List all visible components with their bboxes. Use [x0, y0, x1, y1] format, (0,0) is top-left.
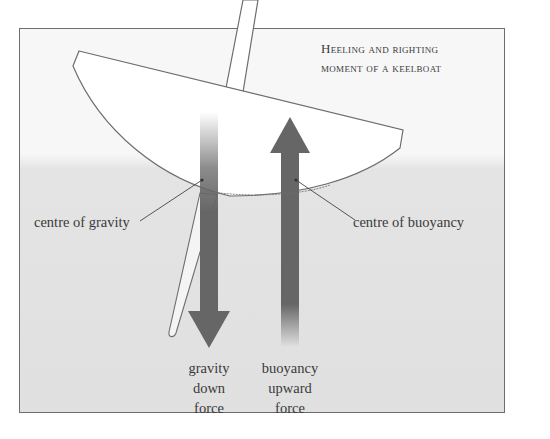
centre-of-buoyancy-point — [294, 178, 297, 181]
buoyancy-label-line: force — [255, 398, 325, 418]
gravity-label-line: down — [178, 378, 240, 398]
buoyancy-label-line: upward — [255, 378, 325, 398]
title-line-1: Heeling and righting — [321, 39, 511, 58]
centre-of-gravity-point — [200, 178, 203, 181]
label-gravity-force: gravity down force — [178, 358, 240, 418]
title-line-2: moment of a keelboat — [321, 58, 511, 77]
label-centre-of-gravity: centre of gravity — [34, 214, 130, 231]
buoyancy-arrow-icon — [270, 117, 310, 347]
cob-leader-line — [296, 180, 355, 220]
gravity-label-line: force — [178, 398, 240, 418]
mast — [226, 0, 258, 92]
gravity-label-line: gravity — [178, 358, 240, 378]
label-centre-of-buoyancy: centre of buoyancy — [353, 214, 464, 231]
cog-leader-line — [140, 180, 202, 221]
diagram-title: Heeling and righting moment of a keelboa… — [321, 39, 511, 77]
label-buoyancy-force: buoyancy upward force — [255, 358, 325, 418]
buoyancy-label-line: buoyancy — [255, 358, 325, 378]
